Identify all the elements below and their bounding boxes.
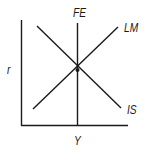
y-axis-label: r — [7, 64, 10, 76]
equilibrium-point — [76, 68, 80, 72]
is-lm-fe-diagram: FE LM IS r Y — [0, 0, 144, 152]
x-axis-label: Y — [74, 135, 81, 147]
is-curve — [37, 26, 121, 108]
is-label: IS — [127, 104, 137, 116]
lm-label: LM — [124, 22, 138, 34]
lm-curve — [33, 27, 118, 109]
fe-label: FE — [73, 7, 86, 19]
diagram-canvas — [0, 0, 144, 152]
